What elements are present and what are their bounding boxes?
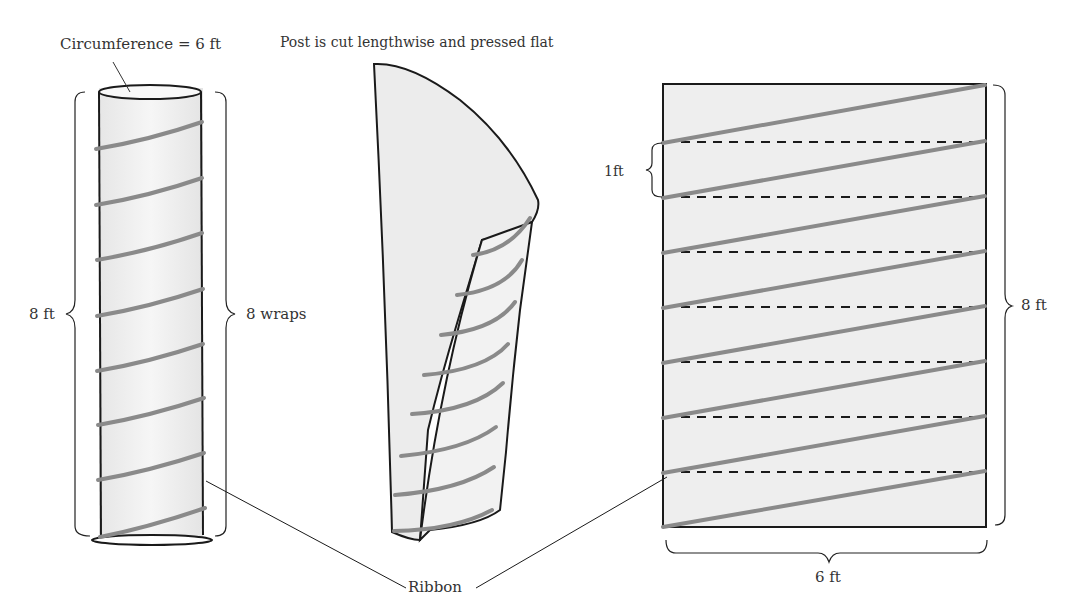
ribbon-label: Ribbon xyxy=(408,580,462,595)
width-brace-bottom xyxy=(666,540,987,562)
circumference-label: Circumference = 6 ft xyxy=(60,37,221,52)
wraps-brace xyxy=(215,92,235,536)
height-left-label: 8 ft xyxy=(29,307,55,322)
caption-label: Post is cut lengthwise and pressed flat xyxy=(280,35,553,49)
diagram-canvas xyxy=(0,0,1072,614)
flattened-post xyxy=(374,64,538,540)
ribbon-leader-right xyxy=(476,477,667,588)
height-brace-left xyxy=(66,92,90,536)
height-right-label: 8 ft xyxy=(1021,298,1047,313)
post-top-ellipse xyxy=(99,85,201,99)
unrolled-rectangle xyxy=(663,84,986,527)
ribbon-leader-left xyxy=(206,481,406,588)
wraps-label: 8 wraps xyxy=(246,307,307,322)
width-bottom-label: 6 ft xyxy=(815,570,841,585)
post-cylinder xyxy=(92,85,212,545)
one-foot-label: 1ft xyxy=(604,164,624,178)
height-brace-right xyxy=(993,85,1012,525)
one-foot-brace xyxy=(646,143,662,197)
